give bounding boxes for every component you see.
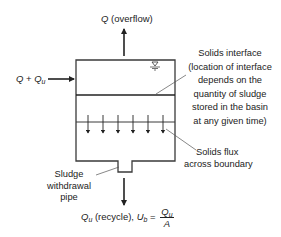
solids-flux-label: Solids flux across boundary bbox=[184, 146, 253, 170]
fraction: QuA bbox=[160, 206, 173, 229]
pipe-leader-line bbox=[96, 167, 119, 175]
overflow-label: Q (overflow) bbox=[101, 13, 153, 25]
water-surface-icon bbox=[150, 62, 160, 70]
basin-outline bbox=[76, 60, 175, 172]
sludge-pipe-label: Sludge withdrawal pipe bbox=[42, 169, 96, 204]
recycle-label: Qu (recycle), Ub = QuA bbox=[81, 206, 174, 229]
solids-interface-label: Solids interface (location of interface … bbox=[180, 47, 280, 128]
inflow-label: Q + Qu bbox=[16, 73, 46, 85]
solids-flux-arrows bbox=[88, 115, 163, 133]
